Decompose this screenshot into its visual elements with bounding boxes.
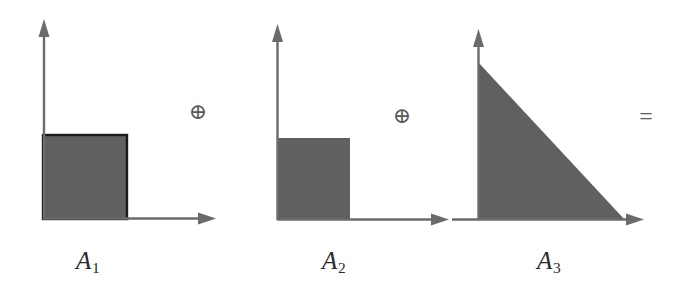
y-axis-arrowhead-a2 [272, 24, 283, 42]
panel-label-a2: A2 [322, 247, 345, 275]
x-axis-arrowhead-a1 [198, 213, 216, 225]
triangle-fill-a3 [478, 62, 625, 220]
panel-a3-graphic [440, 0, 691, 294]
panel-label-a2-index: 2 [338, 259, 346, 276]
y-axis-arrowhead-a3 [473, 29, 484, 47]
figure-canvas: ⊕ ⊕ = A1 A2 A3 [0, 0, 691, 294]
square-fill-a2 [277, 138, 350, 220]
panel-a1 [0, 0, 230, 294]
panel-label-a1: A1 [76, 247, 99, 275]
panel-label-a1-index: 1 [92, 259, 100, 276]
square-fill-a1 [43, 135, 127, 219]
x-axis-arrowhead-a3 [626, 214, 644, 226]
circled-plus-icon: ⊕ [390, 105, 414, 129]
panel-label-a3-index: 3 [553, 259, 561, 276]
panel-label-a3-letter: A [537, 247, 552, 274]
circled-plus-icon: ⊕ [186, 101, 210, 125]
panel-label-a3: A3 [537, 247, 560, 275]
panel-label-a2-letter: A [322, 247, 337, 274]
y-axis-arrowhead-a1 [39, 19, 50, 37]
panel-a3 [440, 0, 691, 294]
panel-label-a1-letter: A [76, 247, 91, 274]
panel-a1-graphic [0, 0, 230, 294]
equals-icon: = [633, 104, 659, 130]
